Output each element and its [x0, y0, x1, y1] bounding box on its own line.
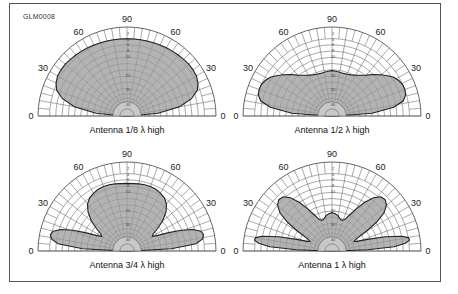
- radial-scale-label: 20: [331, 208, 336, 213]
- plot-caption: Antenna 3/4 λ high: [89, 260, 164, 270]
- radial-scale-label: 40: [331, 102, 336, 107]
- plot-antenna-1-2-wavelength: 246810203040030609060300Antenna 1/2 λ hi…: [233, 14, 430, 135]
- angle-label: 0: [425, 111, 430, 121]
- radial-scale-label: 40: [126, 237, 131, 242]
- radial-scale-label: 2: [332, 31, 335, 36]
- radial-scale-label: 20: [126, 208, 131, 213]
- radial-scale-label: 4: [332, 172, 335, 177]
- angle-label: 0: [233, 111, 238, 121]
- angle-label: 60: [73, 162, 83, 172]
- angle-label: 90: [327, 14, 337, 24]
- angle-label: 0: [425, 246, 430, 256]
- angle-label: 0: [220, 246, 225, 256]
- radial-scale-label: 30: [331, 87, 336, 92]
- angle-label: 60: [278, 27, 288, 37]
- angle-label: 90: [122, 14, 132, 24]
- radial-scale-label: 2: [127, 166, 130, 171]
- radial-scale-label: 10: [331, 189, 336, 194]
- radial-scale-label: 8: [332, 48, 335, 53]
- radial-scale-label: 2: [332, 166, 335, 171]
- angle-label: 60: [375, 27, 385, 37]
- antenna-pattern-diagram: 246810203040030609060300Antenna 1/8 λ hi…: [0, 0, 458, 294]
- plot-caption: Antenna 1/2 λ high: [294, 125, 369, 135]
- plot-caption: Antenna 1 λ high: [298, 260, 366, 270]
- angle-label: 60: [375, 162, 385, 172]
- radial-scale-label: 20: [331, 73, 336, 78]
- angle-label: 30: [38, 63, 48, 73]
- angle-label: 30: [411, 63, 421, 73]
- angle-label: 30: [206, 63, 216, 73]
- angle-label: 30: [243, 63, 253, 73]
- angle-label: 90: [122, 149, 132, 159]
- radial-scale-label: 10: [126, 54, 131, 59]
- radial-scale-label: 8: [332, 183, 335, 188]
- radial-scale-label: 40: [331, 237, 336, 242]
- radial-scale-label: 4: [332, 37, 335, 42]
- angle-label: 30: [411, 198, 421, 208]
- angle-label: 30: [206, 198, 216, 208]
- angle-label: 0: [220, 111, 225, 121]
- radial-scale-label: 20: [126, 73, 131, 78]
- angle-label: 30: [38, 198, 48, 208]
- angle-label: 30: [243, 198, 253, 208]
- radial-scale-label: 40: [126, 102, 131, 107]
- plot-antenna-3-4-wavelength: 246810203040030609060300Antenna 3/4 λ hi…: [28, 149, 225, 270]
- radial-scale-label: 2: [127, 31, 130, 36]
- plot-caption: Antenna 1/8 λ high: [89, 125, 164, 135]
- plot-antenna-1-wavelength: 246810203040030609060300Antenna 1 λ high: [233, 149, 430, 270]
- radial-scale-label: 10: [126, 189, 131, 194]
- angle-label: 0: [233, 246, 238, 256]
- plot-antenna-1-8-wavelength: 246810203040030609060300Antenna 1/8 λ hi…: [28, 14, 225, 135]
- radial-scale-label: 30: [126, 87, 131, 92]
- angle-label: 0: [28, 111, 33, 121]
- radial-scale-label: 30: [331, 222, 336, 227]
- angle-label: 90: [327, 149, 337, 159]
- radial-scale-label: 10: [331, 54, 336, 59]
- angle-label: 60: [278, 162, 288, 172]
- angle-label: 0: [28, 246, 33, 256]
- angle-label: 60: [170, 162, 180, 172]
- radial-scale-label: 30: [126, 222, 131, 227]
- angle-label: 60: [170, 27, 180, 37]
- radial-scale-label: 4: [127, 172, 130, 177]
- angle-label: 60: [73, 27, 83, 37]
